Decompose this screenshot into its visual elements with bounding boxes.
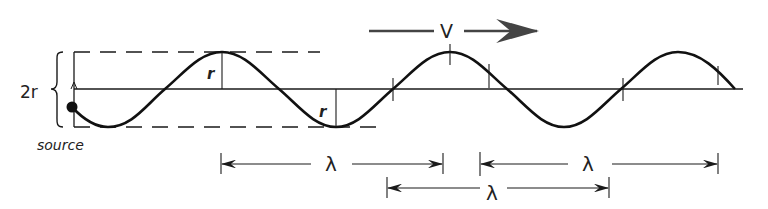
wavelength-dimension-2 xyxy=(480,152,718,176)
amplitude-label: 2r xyxy=(20,82,38,102)
wavelength-label-2: λ xyxy=(582,152,594,176)
amplitude-brace-icon xyxy=(51,52,63,127)
wavelength-label-3: λ xyxy=(486,181,498,205)
wave-diagram: 2r source r r V λ λ λ xyxy=(0,0,768,209)
wavelength-label-1: λ xyxy=(325,152,337,176)
radius-label-trough: r xyxy=(319,103,328,121)
source-label: source xyxy=(37,137,84,153)
source-dot xyxy=(67,102,78,113)
velocity-label: V xyxy=(440,20,453,42)
wavelength-dimension-3 xyxy=(387,177,609,198)
radius-label-crest: r xyxy=(207,65,216,83)
